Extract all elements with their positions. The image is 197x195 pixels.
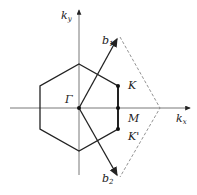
m-label: M: [128, 113, 139, 124]
b1-label: b1: [102, 35, 114, 48]
b2-label: b2: [102, 173, 114, 186]
m-point: [116, 106, 120, 110]
kprime-label: K': [128, 131, 139, 142]
b1-vector: [79, 39, 117, 108]
ky-axis-label: ky: [61, 10, 72, 23]
brillouin-zone-diagram: ky kx b1 b2 Γ K M K': [0, 0, 197, 195]
kprime-point: [116, 127, 120, 131]
k-label: K: [128, 80, 136, 91]
b2-label-main: b: [102, 172, 109, 185]
ky-label-main: k: [61, 9, 68, 22]
gamma-point: [77, 106, 81, 110]
b2-label-sub: 2: [109, 178, 113, 186]
k-point: [116, 84, 120, 88]
b2-vector: [79, 108, 117, 175]
kx-label-main: k: [176, 112, 183, 125]
b1-label-main: b: [102, 34, 109, 47]
ky-label-sub: y: [68, 15, 72, 23]
dashed-reciprocal-cell: [120, 37, 160, 177]
diagram-graphics: [0, 0, 197, 195]
b1-label-sub: 1: [109, 40, 113, 48]
gamma-label: Γ: [65, 94, 73, 105]
kx-label-sub: x: [183, 118, 187, 126]
kx-axis-label: kx: [176, 113, 187, 126]
